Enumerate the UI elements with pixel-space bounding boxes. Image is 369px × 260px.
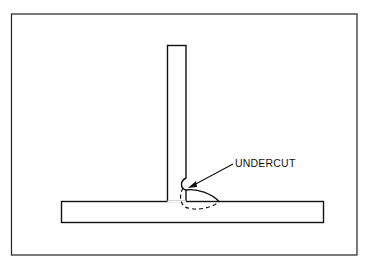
undercut-label: UNDERCUT xyxy=(235,157,296,169)
vertical-plate xyxy=(168,46,187,202)
weld-diagram xyxy=(0,0,369,260)
horizontal-plate xyxy=(62,202,324,223)
leader-line xyxy=(192,164,233,186)
